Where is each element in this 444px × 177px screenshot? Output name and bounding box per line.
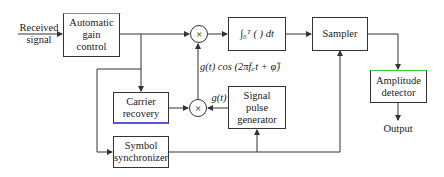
input-label: Received signal bbox=[14, 22, 64, 46]
carrier-recovery-block: Carrier recovery bbox=[113, 92, 169, 124]
amplitude-detector-block: Amplitude detector bbox=[370, 70, 427, 103]
integrator-block: ∫₀ᵀ ( ) dt bbox=[228, 17, 286, 51]
output-label: Output bbox=[373, 123, 423, 135]
sampler-block: Sampler bbox=[312, 17, 368, 51]
multiplier-2: × bbox=[189, 99, 207, 117]
pulse-signal-label: g(t) bbox=[209, 92, 229, 104]
symbol-synchronizer-block: Symbol synchronizer bbox=[113, 136, 169, 168]
receiver-block-diagram: Received signal Automatic gain control ×… bbox=[0, 0, 444, 177]
multiplier-1: × bbox=[190, 25, 208, 43]
signal-pulse-generator-block: Signal pulse generator bbox=[228, 86, 286, 129]
reference-signal-label: g(t) cos (2πf꜀t + φ̂) bbox=[200, 61, 310, 73]
agc-block: Automatic gain control bbox=[63, 13, 120, 57]
